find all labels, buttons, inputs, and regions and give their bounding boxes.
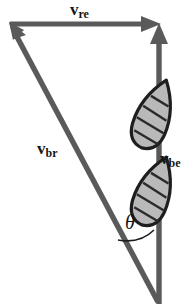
vector-diagram-figure: vre vbr vbe θ [0, 0, 196, 305]
label-theta: θ [125, 212, 135, 232]
label-v-re-base: v [70, 0, 79, 19]
label-v-br: vbr [37, 140, 58, 159]
boat-upper [126, 74, 183, 153]
label-v-br-sub: br [46, 146, 58, 160]
label-v-re-sub: re [79, 7, 89, 21]
label-v-be: vbe [160, 150, 181, 169]
label-v-br-base: v [37, 139, 46, 158]
label-v-be-sub: be [169, 156, 181, 170]
vector-vbr-arrow [9, 22, 158, 302]
label-v-re: vre [70, 1, 89, 20]
label-v-be-base: v [160, 149, 169, 168]
